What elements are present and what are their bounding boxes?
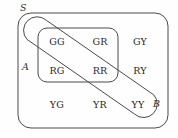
universe-set-label: S: [20, 3, 27, 13]
element-yy: YY: [132, 100, 145, 110]
set-a-label: A: [22, 62, 29, 72]
element-ry: RY: [133, 66, 147, 76]
element-rr: RR: [93, 66, 108, 76]
element-gr: GR: [92, 37, 107, 47]
venn-diagram-figure: S A B GG GR GY RG RR RY YG YR YY: [0, 0, 178, 138]
element-gg: GG: [49, 37, 65, 47]
element-yr: YR: [93, 100, 107, 110]
element-rg: RG: [49, 66, 64, 76]
element-gy: GY: [133, 37, 147, 47]
element-yg: YG: [50, 100, 64, 110]
set-b-label: B: [153, 99, 160, 109]
